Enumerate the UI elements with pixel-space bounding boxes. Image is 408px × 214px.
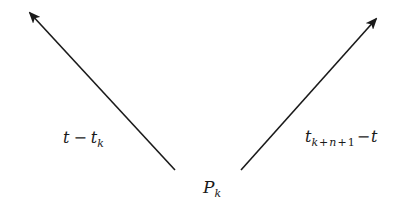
sub-plus: + bbox=[318, 136, 329, 149]
point-name: P bbox=[203, 177, 214, 197]
left-arrow-label: t−tk bbox=[63, 130, 104, 146]
label-t: t bbox=[371, 127, 377, 146]
right-arrow bbox=[241, 19, 376, 170]
subscript-k: k bbox=[97, 137, 104, 150]
minus-operator: − bbox=[355, 127, 371, 146]
minus-operator: − bbox=[69, 128, 90, 147]
point-subscript: k bbox=[214, 187, 221, 200]
sub-plus: + bbox=[336, 136, 347, 149]
subscript-k-plus-n-plus-1: k+n+1 bbox=[311, 136, 354, 149]
point-label: Pk bbox=[203, 179, 221, 196]
right-arrow-label: tk+n+1−t bbox=[305, 129, 377, 145]
sub-1: 1 bbox=[348, 136, 355, 149]
